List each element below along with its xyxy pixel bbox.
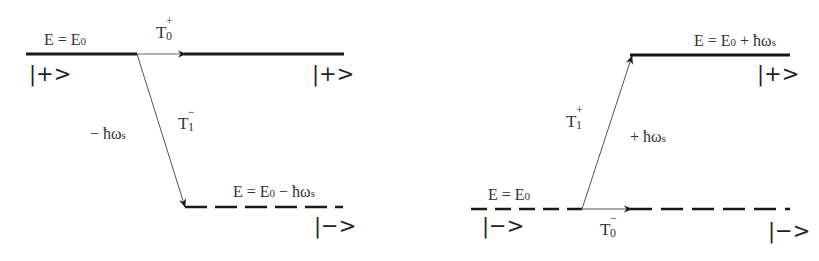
left-upper-energy-label: E = E0 xyxy=(44,32,86,48)
right-t0-minus-label: T−0 xyxy=(600,221,610,238)
left-lower-state-ket: |−> xyxy=(314,216,356,237)
right-lower-state-ket-left: |−> xyxy=(482,216,524,237)
right-energy-change-label: + ħωs xyxy=(630,129,666,145)
left-t1-minus-label: T−1 xyxy=(178,115,188,132)
left-upper-state-ket: |+> xyxy=(29,64,71,85)
left-lower-energy-label: E = E0 − ħωs xyxy=(233,184,315,200)
right-lower-energy-label: E = E0 xyxy=(488,187,530,203)
right-upper-energy-label: E = E0 + ħωs xyxy=(694,33,776,49)
left-upper-state-ket-right: |+> xyxy=(312,64,354,85)
left-energy-change-label: − ħωs xyxy=(90,126,126,142)
right-t1-plus-arrow xyxy=(582,56,632,209)
left-t0-plus-label: T+0 xyxy=(156,24,166,41)
right-lower-state-ket-right: |−> xyxy=(768,221,810,242)
right-t1-plus-label: T+1 xyxy=(566,113,576,130)
right-upper-state-ket: |+> xyxy=(757,64,799,85)
